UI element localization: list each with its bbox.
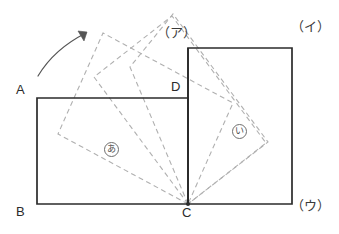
vertex-label-c: C: [182, 206, 191, 219]
choice-label-u: （ウ）: [291, 199, 330, 212]
dashed-rotation-stages: [58, 14, 268, 204]
geometry-figure: A B C D （ア） （イ） （ウ） あ い: [0, 0, 339, 234]
region-label-a-wrap: あ: [104, 139, 119, 157]
choice-label-a: （ア）: [157, 26, 196, 39]
vertex-label-b: B: [16, 205, 25, 218]
vertex-label-d: D: [171, 80, 180, 93]
region-label-i-wrap: い: [232, 121, 247, 139]
region-label-a: あ: [104, 142, 119, 157]
rotated-rect-stage-3: [130, 14, 268, 204]
choice-label-i: （イ）: [291, 20, 330, 33]
region-label-i: い: [232, 124, 247, 139]
rotation-arrow-curve: [38, 33, 86, 76]
vertex-label-a: A: [16, 83, 25, 96]
rotation-direction-arrow: [38, 31, 87, 76]
rotated-rect-stage-2: [94, 16, 266, 204]
